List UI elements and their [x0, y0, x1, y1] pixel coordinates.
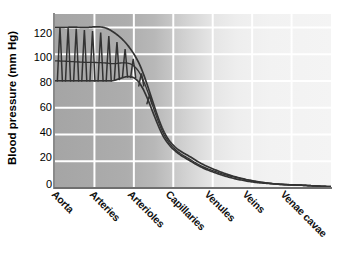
x-tick-venules: Venules: [203, 188, 239, 224]
pulse-wave: [82, 30, 87, 81]
y-tick-60: 60: [22, 101, 52, 113]
y-tick-100: 100: [22, 51, 52, 63]
x-axis-tick-labels: Aorta Arteries Arterioles Capillaries Ve…: [0, 188, 339, 253]
diastolic-curve: [55, 77, 331, 187]
x-tick-veins: Veins: [241, 188, 268, 215]
y-tick-80: 80: [22, 76, 52, 88]
plot-svg: [55, 14, 331, 188]
mean-pressure-curve: [55, 61, 331, 187]
x-tick-arteries: Arteries: [88, 188, 123, 223]
x-tick-venae-cavae: Venae cavae: [279, 188, 330, 239]
pulse-oscillations: [57, 28, 152, 104]
x-tick-capillaries: Capillaries: [164, 188, 208, 232]
y-axis-title: Blood pressure (mm Hg): [2, 0, 22, 195]
plot-area: [55, 14, 331, 188]
y-tick-120: 120: [22, 27, 52, 39]
pulse-wave: [106, 36, 111, 81]
pulse-wave: [114, 42, 119, 79]
y-tick-20: 20: [22, 151, 52, 163]
x-tick-arterioles: Arterioles: [126, 188, 168, 230]
x-tick-aorta: Aorta: [50, 188, 77, 215]
pulse-wave: [98, 32, 103, 80]
y-tick-40: 40: [22, 126, 52, 138]
y-axis-title-text: Blood pressure (mm Hg): [6, 30, 18, 164]
blood-pressure-chart: Blood pressure (mm Hg) 120 100 80 60 40 …: [0, 0, 339, 253]
